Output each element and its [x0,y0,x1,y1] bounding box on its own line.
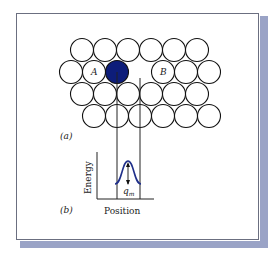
lattice-atom [71,83,94,106]
lattice-atom [140,39,163,62]
lattice-atom [175,105,198,128]
lattice-atom [163,39,186,62]
barrier-subscript: m [129,190,135,197]
lattice-atom [163,83,186,106]
lattice-atom [198,105,221,128]
lattice-atom [83,105,106,128]
lattice-atom [140,83,163,106]
lattice-atom [94,83,117,106]
lattice-atom [152,105,175,128]
lattice-atom [60,61,83,84]
atom-a-label: A [90,67,98,77]
panel-a-label: (a) [60,131,73,141]
lattice-atom [94,39,117,62]
panel-b-label: (b) [60,205,73,215]
energy-axis-label: Energy [83,160,93,194]
position-axis-label: Position [104,206,141,216]
lattice-atom [186,83,209,106]
barrier-arrow-head-down [126,180,130,185]
lattice-atom [117,83,140,106]
lattice-atom [117,39,140,62]
diffusion-figure: AB (a) Energy Position qm (b) [0,0,280,255]
lattice-atom [71,39,94,62]
lattice-atom [175,61,198,84]
barrier-arrow-head-up [126,162,130,167]
lattice-atom [186,39,209,62]
barrier-label: qm [123,186,135,197]
atom-b-label: B [159,67,167,77]
lattice-atom [198,61,221,84]
